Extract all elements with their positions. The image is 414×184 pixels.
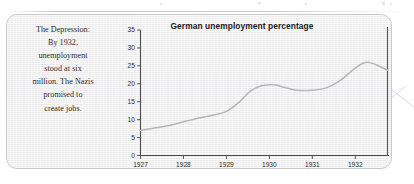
x-tick-label: 1931 bbox=[305, 161, 320, 168]
scan-speck bbox=[160, 3, 162, 5]
scan-speck bbox=[258, 2, 261, 4]
caption-text: The Depression: By 1932, unemployment st… bbox=[13, 23, 113, 115]
caption-block: The Depression: By 1932, unemployment st… bbox=[11, 19, 115, 165]
x-tick-label: 1932 bbox=[348, 161, 363, 168]
y-tick-label: 35 bbox=[128, 26, 136, 33]
figure-card: The Depression: By 1932, unemployment st… bbox=[6, 14, 392, 169]
chart-region: German unemployment percentage 051015202… bbox=[111, 15, 391, 168]
y-tick-label: 10 bbox=[128, 116, 136, 123]
scan-speck bbox=[390, 3, 392, 5]
y-tick-label: 5 bbox=[131, 134, 135, 141]
x-tick-label: 1927 bbox=[133, 161, 148, 168]
x-tick-label: 1930 bbox=[262, 161, 277, 168]
line-chart: 05101520253035 192719281929193019311932 bbox=[111, 15, 392, 169]
scan-speck bbox=[382, 2, 385, 5]
y-tick-label: 30 bbox=[128, 44, 136, 51]
scan-speck bbox=[305, 3, 307, 5]
y-tick-label: 0 bbox=[131, 152, 135, 159]
data-series-line bbox=[141, 62, 388, 130]
scan-artifact-top-line bbox=[6, 11, 406, 12]
y-tick-label: 25 bbox=[128, 62, 136, 69]
y-tick-label: 15 bbox=[128, 98, 136, 105]
x-axis: 192719281929193019311932 bbox=[133, 156, 363, 168]
y-tick-label: 20 bbox=[128, 80, 136, 87]
x-tick-label: 1928 bbox=[176, 161, 191, 168]
y-axis: 05101520253035 bbox=[128, 26, 141, 159]
x-tick-label: 1929 bbox=[219, 161, 234, 168]
